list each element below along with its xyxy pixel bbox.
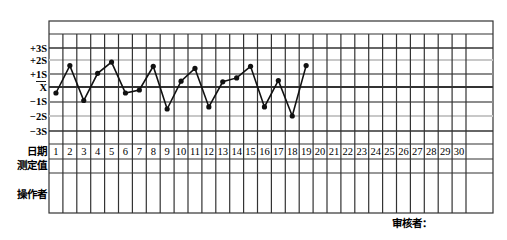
day-26: 26 [398, 146, 409, 157]
data-point-day-11 [192, 66, 197, 71]
day-20: 20 [315, 146, 326, 157]
row-label-measured: 测定值 [17, 159, 48, 171]
day-25: 25 [384, 146, 395, 157]
day-18: 18 [287, 146, 298, 157]
day-14: 14 [231, 146, 242, 157]
day-8: 8 [151, 146, 156, 157]
label-mean: X [39, 82, 47, 93]
day-5: 5 [109, 146, 114, 157]
y-axis-labels: +3S +2S +1S X −1S −2S −3S [30, 43, 47, 137]
day-27: 27 [412, 146, 423, 157]
data-point-day-10 [178, 79, 183, 84]
data-point-day-12 [206, 104, 211, 109]
data-point-day-16 [262, 104, 267, 109]
day-15: 15 [245, 146, 256, 157]
day-22: 22 [343, 146, 354, 157]
qc-line [56, 62, 306, 116]
data-point-day-4 [95, 71, 100, 76]
data-point-day-17 [276, 78, 281, 83]
qc-chart: +3S +2S +1S X −1S −2S −3S 日期 测定值 操作者 123… [0, 0, 507, 240]
day-6: 6 [123, 146, 128, 157]
label-minus-3s: −3S [30, 126, 47, 137]
reviewer-label: 审核者： [392, 217, 432, 229]
data-point-day-14 [234, 75, 239, 80]
day-1: 1 [53, 146, 58, 157]
label-minus-2s: −2S [30, 111, 47, 122]
day-4: 4 [95, 146, 101, 157]
date-row: 1234567891011121314151617181920212223242… [53, 146, 464, 157]
day-12: 12 [204, 146, 215, 157]
data-point-day-8 [151, 64, 156, 69]
data-point-day-18 [290, 113, 295, 118]
day-24: 24 [370, 146, 381, 157]
data-point-day-6 [123, 90, 128, 95]
row-labels: 日期 测定值 操作者 [17, 145, 48, 200]
day-17: 17 [273, 146, 284, 157]
label-plus-1s: +1S [30, 69, 47, 80]
data-point-day-13 [220, 79, 225, 84]
day-10: 10 [176, 146, 187, 157]
day-9: 9 [165, 146, 170, 157]
qc-series [53, 60, 308, 119]
data-point-day-15 [248, 64, 253, 69]
data-point-day-2 [67, 63, 72, 68]
data-point-day-1 [53, 90, 58, 95]
day-16: 16 [259, 146, 270, 157]
data-point-day-5 [109, 60, 114, 65]
day-21: 21 [329, 146, 340, 157]
day-11: 11 [190, 146, 200, 157]
data-point-day-9 [165, 106, 170, 111]
day-28: 28 [426, 146, 437, 157]
day-29: 29 [440, 146, 451, 157]
day-7: 7 [137, 146, 142, 157]
data-point-day-19 [304, 63, 309, 68]
day-3: 3 [81, 146, 86, 157]
day-23: 23 [357, 146, 368, 157]
label-minus-1s: −1S [30, 96, 47, 107]
row-label-date: 日期 [27, 145, 47, 157]
chart-grid [49, 21, 493, 213]
label-plus-3s: +3S [30, 43, 47, 54]
data-point-day-7 [137, 87, 142, 92]
day-19: 19 [301, 146, 312, 157]
data-point-day-3 [81, 98, 86, 103]
day-2: 2 [67, 146, 72, 157]
day-13: 13 [218, 146, 229, 157]
row-label-operator: 操作者 [17, 188, 48, 200]
day-30: 30 [454, 146, 465, 157]
label-plus-2s: +2S [30, 55, 47, 66]
